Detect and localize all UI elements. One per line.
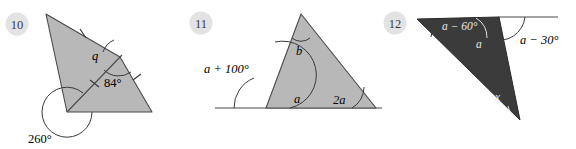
angle-label-260: 260° <box>28 132 52 146</box>
problem-10-figure: 10 q 84° 260° <box>0 0 192 149</box>
angle-label-a-minus-60: a − 60° <box>442 20 478 32</box>
angle-label-b: b <box>296 44 302 58</box>
angle-arc-a-plus-100 <box>234 78 254 108</box>
problem-11-figure: 11 b a a + 100° 2a <box>186 0 386 149</box>
tick-mark-right-edge <box>133 74 141 80</box>
triangle-shape-10 <box>46 14 152 112</box>
problem-number-label-12: 12 <box>389 17 402 31</box>
angle-label-a: a <box>476 38 482 50</box>
triangle-shape-12 <box>417 17 520 120</box>
angle-label-84: 84° <box>104 76 122 90</box>
angle-label-a-minus-30: a − 30° <box>520 33 558 47</box>
worksheet-page: 10 q 84° 260° <box>0 0 576 149</box>
angle-label-q: q <box>92 49 98 63</box>
angle-label-a: a <box>294 92 300 106</box>
problem-11: 11 b a a + 100° 2a <box>186 0 386 149</box>
triangle-shape-11 <box>266 14 376 108</box>
problem-12-figure: 12 a − 60° a a − 30° x <box>380 0 576 149</box>
problem-10: 10 q 84° 260° <box>0 0 192 149</box>
problem-number-label-10: 10 <box>11 18 24 32</box>
angle-label-2a: 2a <box>333 93 346 107</box>
angle-label-x: x <box>494 91 501 103</box>
angle-label-a-plus-100: a + 100° <box>204 62 249 76</box>
problem-number-label-11: 11 <box>195 17 207 31</box>
problem-12: 12 a − 60° a a − 30° x <box>380 0 576 149</box>
